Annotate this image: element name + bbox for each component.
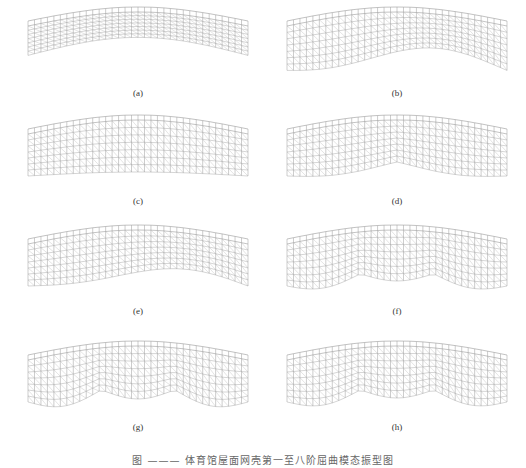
lattice-diagonal xyxy=(112,270,118,275)
lattice-diagonal xyxy=(384,390,390,398)
mode-shape-g xyxy=(18,338,258,418)
lattice-diagonal xyxy=(34,29,40,32)
lattice-diagonal xyxy=(455,125,461,133)
lattice-diagonal xyxy=(242,397,248,402)
lattice-diagonal xyxy=(306,399,312,406)
lattice-diagonal xyxy=(371,367,377,375)
lattice-diagonal xyxy=(99,360,105,366)
lattice-diagonal xyxy=(358,269,364,275)
lattice-diagonal xyxy=(164,380,170,385)
lattice-diagonal xyxy=(391,361,397,368)
lattice-diagonal xyxy=(28,34,34,37)
lattice-diagonal xyxy=(365,250,371,257)
lattice-diagonal xyxy=(352,57,358,62)
lattice-diagonal xyxy=(293,25,299,30)
lattice-diagonal xyxy=(494,391,500,397)
lattice-diagonal xyxy=(216,354,222,363)
lattice-diagonal xyxy=(209,140,215,148)
lattice-diagonal xyxy=(73,126,79,132)
lattice-diagonal xyxy=(397,274,403,281)
lattice-diagonal xyxy=(164,236,170,242)
lattice-diagonal xyxy=(462,236,468,244)
lattice-diagonal xyxy=(332,250,338,256)
lattice-diagonal xyxy=(475,135,481,143)
lattice-diagonal xyxy=(151,150,157,158)
lattice-diagonal xyxy=(326,61,332,67)
lattice-diagonal xyxy=(138,16,144,20)
lattice-diagonal xyxy=(300,391,306,398)
lattice-diagonal xyxy=(345,16,351,22)
lattice-diagonal xyxy=(86,166,92,173)
lattice-diagonal xyxy=(106,36,112,39)
lattice-diagonal xyxy=(41,150,47,156)
lattice-diagonal xyxy=(67,360,73,366)
lattice-diagonal xyxy=(332,126,338,132)
figure-caption: 图 ——— 体育馆屋面网壳第一至八阶屈曲模态振型图 xyxy=(0,452,526,467)
lattice-diagonal xyxy=(157,150,163,158)
lattice-diagonal xyxy=(293,249,299,255)
lattice-diagonal xyxy=(28,360,34,365)
lattice-diagonal xyxy=(164,360,170,366)
lattice-diagonal xyxy=(86,357,92,362)
lattice-diagonal xyxy=(293,164,299,170)
lattice-diagonal xyxy=(67,140,73,146)
lattice-diagonal xyxy=(306,130,312,136)
lattice-diagonal xyxy=(203,132,209,140)
lattice-diagonal xyxy=(306,254,312,260)
lattice-diagonal xyxy=(429,379,435,385)
lattice-diagonal xyxy=(455,153,461,161)
lattice-diagonal xyxy=(73,366,79,372)
lattice-diagonal xyxy=(384,244,390,251)
lattice-diagonal xyxy=(397,12,403,18)
lattice-diagonal xyxy=(371,45,377,50)
lattice-diagonal xyxy=(423,257,429,262)
lattice-diagonal xyxy=(112,136,118,143)
panel-label: (e) xyxy=(18,306,258,316)
lattice-diagonal xyxy=(326,353,332,359)
lattice-diagonal xyxy=(358,14,364,20)
lattice-diagonal xyxy=(371,32,377,37)
lattice-diagonal xyxy=(132,157,138,164)
lattice-diagonal xyxy=(67,257,73,263)
lattice-diagonal xyxy=(28,170,34,176)
lattice-diagonal xyxy=(125,128,131,135)
lattice-diagonal xyxy=(365,347,371,353)
lattice-diagonal xyxy=(423,238,429,244)
lattice-diagonal xyxy=(28,262,34,267)
lattice-diagonal xyxy=(177,137,183,145)
lattice-diagonal xyxy=(436,129,442,137)
lattice-diagonal xyxy=(462,154,468,162)
lattice-diagonal xyxy=(319,354,325,360)
lattice-diagonal xyxy=(339,249,345,254)
lattice-diagonal xyxy=(132,150,138,157)
lattice-diagonal xyxy=(73,389,79,394)
lattice-diagonal xyxy=(28,268,34,273)
lattice-diagonal xyxy=(423,231,429,238)
lattice-diagonal xyxy=(119,237,125,243)
lattice-diagonal xyxy=(203,167,209,174)
lattice-diagonal xyxy=(119,368,125,376)
lattice-diagonal xyxy=(352,246,358,251)
lattice-diagonal xyxy=(164,253,170,258)
lattice-diagonal xyxy=(170,366,176,372)
lattice-diagonal xyxy=(125,383,131,391)
lattice-diagonal xyxy=(423,373,429,378)
lattice-diagonal xyxy=(287,256,293,262)
lattice-diagonal xyxy=(378,353,384,360)
lattice-diagonal xyxy=(138,27,144,31)
lattice-diagonal xyxy=(60,134,66,140)
lattice-diagonal xyxy=(170,354,176,361)
lattice-diagonal xyxy=(125,20,131,23)
lattice-diagonal xyxy=(144,230,150,236)
lattice-diagonal xyxy=(138,248,144,253)
lattice-diagonal xyxy=(384,266,390,274)
lattice-diagonal xyxy=(47,356,53,362)
lattice-diagonal xyxy=(468,273,474,281)
lattice-diagonal xyxy=(391,120,397,126)
lattice-diagonal xyxy=(47,272,53,278)
lattice-diagonal xyxy=(41,44,47,47)
lattice-diagonal xyxy=(151,230,157,236)
lattice-diagonal xyxy=(345,363,351,368)
lattice-diagonal xyxy=(86,138,92,144)
lattice-diagonal xyxy=(306,275,312,282)
